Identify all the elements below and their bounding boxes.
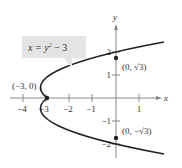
y-axis-arrow-icon: [114, 24, 118, 30]
point-top: [114, 56, 118, 60]
x-axis-label: x: [163, 93, 168, 103]
svg-text:1: 1: [107, 70, 112, 80]
svg-text:−1: −1: [101, 116, 111, 126]
point-bottom-label: (0, −√3): [122, 126, 152, 136]
parabola-graph: x y −4 −3 −2 −1 1 2 1 −1 −2 (−3, 0) (0, …: [0, 0, 182, 168]
vertex-label: (−3, 0): [12, 81, 37, 91]
svg-text:−4: −4: [17, 104, 27, 114]
y-axis-label: y: [112, 12, 117, 22]
equation-label: x = y2 − 3: [27, 42, 67, 53]
svg-text:−1: −1: [86, 104, 96, 114]
x-axis-arrow-icon: [156, 96, 162, 100]
point-top-label: (0, √3): [122, 62, 146, 72]
svg-text:2: 2: [107, 47, 112, 57]
svg-text:1: 1: [137, 104, 142, 114]
svg-text:−2: −2: [63, 104, 73, 114]
x-tick-labels: −4 −3 −2 −1 1: [17, 104, 141, 114]
point-bottom: [114, 136, 118, 140]
vertex-point: [45, 96, 49, 100]
